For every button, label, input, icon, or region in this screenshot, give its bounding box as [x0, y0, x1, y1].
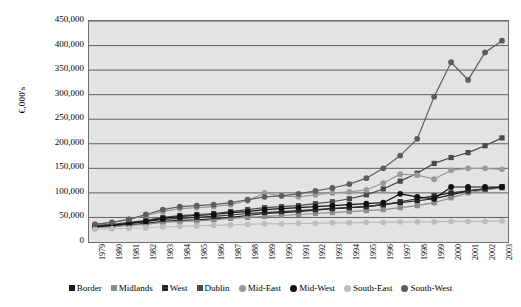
data-point — [499, 184, 505, 190]
data-point — [449, 155, 454, 160]
legend-marker-icon — [290, 285, 297, 292]
chart-container: €,000's 450,000400,000350,000300,000250,… — [0, 0, 521, 307]
x-axis-tick-label: 1990 — [285, 244, 294, 278]
data-point — [177, 214, 183, 220]
x-axis-tick-label: 1986 — [217, 244, 226, 278]
legend-item-border[interactable]: Border — [69, 283, 102, 293]
data-point — [228, 200, 234, 206]
x-axis-tick-label: 2003 — [505, 244, 514, 278]
data-point — [313, 220, 319, 226]
data-point — [448, 184, 454, 190]
data-point — [465, 184, 471, 190]
data-point — [398, 179, 403, 184]
data-point — [228, 222, 234, 228]
data-point — [143, 212, 149, 218]
data-point — [398, 199, 403, 204]
legend-marker-icon — [239, 285, 246, 292]
legend-label: Dublin — [205, 283, 230, 293]
data-point — [449, 190, 454, 195]
data-point — [414, 136, 420, 142]
data-point — [126, 217, 132, 223]
data-point — [143, 218, 149, 224]
data-point — [363, 219, 369, 225]
legend-item-south-east[interactable]: South-East — [344, 283, 393, 293]
data-point — [448, 59, 454, 65]
legend-label: Midlands — [119, 283, 153, 293]
x-axis-tick-label: 2002 — [488, 244, 497, 278]
data-point — [296, 205, 302, 211]
data-point — [431, 196, 437, 202]
legend-label: Mid-East — [248, 283, 282, 293]
data-point — [397, 219, 403, 225]
data-point — [414, 194, 420, 200]
data-point — [279, 206, 285, 212]
x-axis-tick-label: 2001 — [471, 244, 480, 278]
data-point — [279, 221, 285, 227]
x-axis-tick-label: 1997 — [403, 244, 412, 278]
data-point — [262, 221, 268, 227]
legend-item-south-west[interactable]: South-West — [401, 283, 452, 293]
x-axis-tick-label: 1999 — [437, 244, 446, 278]
x-axis-tick-label: 1994 — [352, 244, 361, 278]
plot-area — [88, 20, 509, 243]
x-axis-tick-label: 1998 — [420, 244, 429, 278]
data-point — [346, 181, 352, 187]
x-axis-tick-label: 1981 — [132, 244, 141, 278]
data-point — [482, 50, 488, 56]
data-point — [482, 143, 487, 148]
data-point — [313, 204, 319, 210]
data-point — [465, 77, 471, 83]
data-point — [431, 94, 437, 100]
legend-marker-icon — [162, 285, 168, 291]
data-point — [160, 207, 166, 213]
legend-item-west[interactable]: West — [162, 283, 188, 293]
y-axis-tick-label: 300,000 — [55, 88, 84, 98]
data-point — [194, 203, 200, 209]
x-axis-tick-label: 1992 — [318, 244, 327, 278]
data-point — [448, 218, 454, 224]
legend-item-midlands[interactable]: Midlands — [111, 283, 153, 293]
y-axis-tick-label: 450,000 — [55, 14, 84, 24]
data-point — [245, 197, 251, 203]
legend-marker-icon — [344, 285, 351, 292]
data-point — [347, 196, 352, 201]
data-point — [499, 135, 504, 140]
data-point — [330, 220, 336, 226]
data-point — [279, 193, 285, 199]
x-axis-tick-label: 1984 — [183, 244, 192, 278]
data-point — [465, 218, 471, 224]
data-point — [330, 203, 336, 209]
legend-marker-icon — [111, 285, 117, 291]
data-point — [211, 212, 217, 218]
data-point — [346, 189, 352, 195]
legend-item-mid-west[interactable]: Mid-West — [290, 283, 335, 293]
data-point — [380, 180, 386, 186]
data-point — [228, 210, 234, 216]
y-axis-tick-label: 150,000 — [55, 161, 84, 171]
x-axis-tick-label: 2000 — [454, 244, 463, 278]
data-point — [211, 202, 217, 208]
y-axis-tick-label: 200,000 — [55, 137, 84, 147]
data-point — [296, 220, 302, 226]
y-axis-tick-label: 0 — [80, 235, 85, 245]
data-point — [296, 191, 302, 197]
data-point — [313, 188, 319, 194]
data-point — [380, 219, 386, 225]
data-point — [414, 219, 420, 225]
data-point — [499, 166, 505, 172]
legend-label: Border — [77, 283, 102, 293]
legend-item-mid-east[interactable]: Mid-East — [239, 283, 282, 293]
x-axis-tick-label: 1996 — [386, 244, 395, 278]
y-axis-tick-label: 100,000 — [55, 186, 84, 196]
legend-label: Mid-West — [299, 283, 335, 293]
data-point — [126, 225, 132, 231]
data-point — [381, 186, 386, 191]
data-point — [465, 165, 471, 171]
y-axis-tick-label: 50,000 — [59, 210, 84, 220]
x-axis-tick-label: 1991 — [302, 244, 311, 278]
data-point — [177, 204, 183, 210]
data-point — [330, 185, 336, 191]
data-point — [431, 219, 437, 225]
data-point — [414, 172, 420, 178]
legend-item-dublin[interactable]: Dublin — [197, 283, 230, 293]
